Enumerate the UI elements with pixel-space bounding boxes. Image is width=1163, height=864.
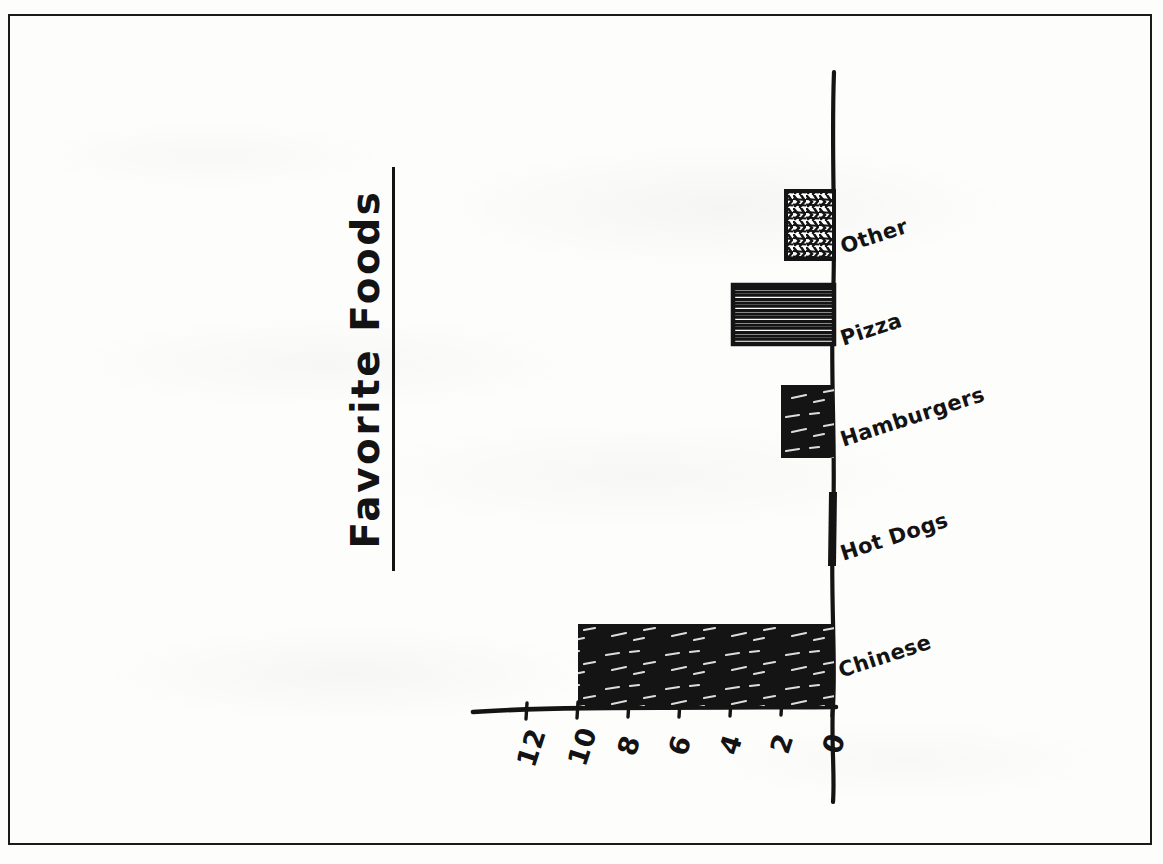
bar-hot-dogs [832,492,833,566]
bar-chart: Other Pizza Hamburgers Hot Dogs Chinese … [0,0,1163,864]
bar-chinese [578,624,834,706]
bar-other [786,191,834,259]
scanned-page: Other Pizza Hamburgers Hot Dogs Chinese … [0,0,1163,864]
bar-pizza [733,285,834,344]
chart-title: Favorite Foods [343,167,395,571]
bar-hamburgers [781,385,834,458]
